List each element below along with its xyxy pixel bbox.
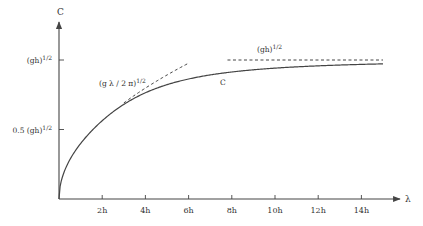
shallow-water-label: (gh)1/2	[257, 43, 282, 54]
dispersion-chart: C λ 2h4h6h8h10h12h14h 0.5 (gh)1/2(gh)1/2…	[0, 0, 423, 226]
x-tick-label: 6h	[183, 206, 193, 215]
x-tick-label: 8h	[227, 206, 237, 215]
x-tick-label: 12h	[311, 206, 326, 215]
x-tick-label: 2h	[97, 206, 107, 215]
x-tick-label: 10h	[267, 206, 282, 215]
x-axis-label: λ	[405, 194, 411, 204]
y-tick-label: 0.5 (gh)1/2	[13, 124, 53, 135]
y-tick-label: (gh)1/2	[27, 54, 52, 65]
y-ticks: 0.5 (gh)1/2(gh)1/2	[13, 54, 64, 135]
y-axis-label: C	[57, 7, 64, 17]
x-tick-label: 4h	[140, 206, 150, 215]
deep-water-label: (g λ / 2 π)1/2	[99, 77, 146, 88]
x-ticks: 2h4h6h8h10h12h14h	[97, 195, 369, 215]
x-tick-label: 14h	[354, 206, 369, 215]
curve-label: C	[220, 78, 226, 87]
